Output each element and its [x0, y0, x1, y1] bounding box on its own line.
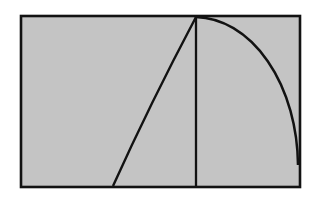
geometric-diagram-svg — [0, 0, 319, 204]
figure-root — [0, 0, 319, 204]
outer-rectangle — [21, 16, 300, 187]
